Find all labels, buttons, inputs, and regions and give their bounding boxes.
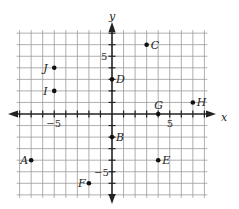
y-axis-arrow-down-icon — [109, 194, 116, 204]
coordinate-plane: −555−5 ABCDEFGHIJ x y — [0, 0, 239, 209]
axes — [8, 22, 216, 204]
x-tick-label: −5 — [46, 118, 61, 129]
x-axis-arrow-right-icon — [206, 111, 216, 118]
point-marker — [156, 158, 161, 163]
point-marker — [52, 66, 57, 71]
x-tick-label: 5 — [167, 118, 173, 129]
point-label: E — [161, 154, 170, 167]
point-label: D — [115, 73, 125, 86]
point-label: J — [41, 62, 48, 75]
point-marker — [156, 112, 161, 117]
point-marker — [110, 77, 115, 82]
point-label: F — [77, 177, 86, 190]
point-label: C — [151, 39, 160, 52]
point-label: H — [196, 96, 207, 109]
point-label: I — [42, 85, 48, 98]
y-tick-label: −5 — [94, 167, 109, 178]
point-label: A — [19, 154, 28, 167]
y-axis-label: y — [108, 10, 116, 23]
y-tick-label: 5 — [101, 51, 107, 62]
point-marker — [110, 135, 115, 140]
point-label: G — [154, 99, 163, 112]
x-axis-arrow-left-icon — [8, 111, 18, 118]
point-marker — [144, 42, 149, 47]
point-marker — [52, 89, 57, 94]
point-label: B — [115, 131, 124, 144]
point-marker — [191, 100, 196, 105]
point-marker — [29, 158, 34, 163]
point-marker — [87, 181, 92, 186]
y-axis-arrow-up-icon — [109, 22, 116, 32]
x-axis-label: x — [221, 111, 228, 124]
